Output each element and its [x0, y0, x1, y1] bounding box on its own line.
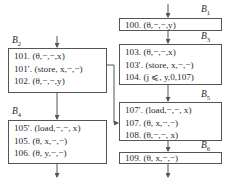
instruction-line: 101. (θ,−,−,x) — [14, 50, 106, 63]
block-label-b4: B4 — [12, 106, 21, 118]
instruction-line: 106. (θ, y,−,−) — [14, 147, 106, 160]
instruction-line: 100. (θ,−,−,y) — [125, 19, 221, 32]
instruction-line: 107′. (load,−,−, x) — [125, 104, 221, 117]
instruction-line: 107. (θ, x,−,−) — [125, 117, 221, 130]
instruction-line: 105. (θ, x,−,−) — [14, 135, 106, 148]
block-label-b3: B3 — [201, 31, 210, 43]
block-b3: 103. (θ,−,−,x) 103′. (store, x,−,−) 104.… — [119, 44, 222, 85]
instruction-line: 102. (θ,−,−,y) — [14, 75, 106, 88]
instruction-line: 103′. (store, x,−,−) — [125, 59, 221, 72]
block-label-b2: B2 — [12, 35, 21, 47]
edge-b2-b5 — [106, 65, 118, 123]
block-b1: 100. (θ,−,−,y) — [119, 18, 222, 31]
block-b4: 105′. (load,−,−, x) 105. (θ, x,−,−) 106.… — [8, 120, 107, 164]
block-b6: 109. (θ, x,−,−) — [119, 152, 222, 164]
block-label-b6: B6 — [201, 140, 210, 152]
instruction-line: 104. (j ⩽, y,0,107) — [125, 71, 221, 84]
instruction-line: 103. (θ,−,−,x) — [125, 46, 221, 59]
instruction-line: 109. (θ, x,−,−) — [125, 153, 221, 164]
block-b5: 107′. (load,−,−, x) 107. (θ, x,−,−) 108.… — [119, 102, 222, 141]
block-label-b5: B5 — [201, 89, 210, 101]
block-label-b1: B1 — [201, 4, 210, 16]
instruction-line: 101′. (store, x,−,−) — [14, 63, 106, 76]
block-b2: 101. (θ,−,−,x) 101′. (store, x,−,−) 102.… — [8, 48, 107, 93]
instruction-line: 105′. (load,−,−, x) — [14, 122, 106, 135]
